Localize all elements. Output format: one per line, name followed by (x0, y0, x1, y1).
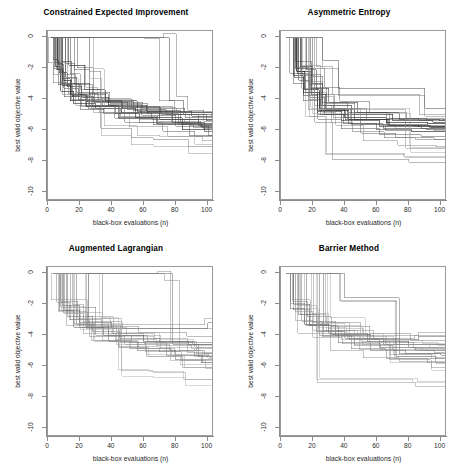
y-tick-mark (275, 334, 280, 335)
y-tick-mark (275, 67, 280, 68)
plot-area (280, 30, 446, 200)
x-axis-line (47, 436, 214, 437)
x-tick-label: 0 (278, 442, 282, 449)
x-tick-label: 100 (434, 206, 445, 213)
series-line (51, 38, 213, 141)
y-tick-mark (42, 129, 47, 130)
y-tick-mark (275, 160, 280, 161)
x-tick-label: 0 (45, 206, 49, 213)
x-tick-mark (344, 437, 345, 441)
y-axis-label: best valid objective value (14, 30, 26, 200)
x-tick-mark (408, 201, 409, 205)
y-tick-label: -10 (25, 181, 37, 201)
x-axis-label: black-box evaluations (n) (280, 219, 447, 226)
x-tick-mark (79, 201, 80, 205)
panel-title: Augmented Lagrangian (0, 244, 232, 253)
x-tick-mark (111, 201, 112, 205)
x-tick-mark (47, 201, 48, 205)
y-tick-label: -6 (258, 355, 270, 375)
y-tick-label: 0 (25, 262, 37, 282)
y-tick-label: -6 (25, 355, 37, 375)
x-tick-mark (344, 201, 345, 205)
x-axis-label: black-box evaluations (n) (280, 455, 447, 462)
y-tick-mark (42, 98, 47, 99)
x-tick-mark (143, 201, 144, 205)
y-tick-label: -6 (258, 119, 270, 139)
panel-barrier-method: Barrier Method best valid objective valu… (233, 236, 465, 472)
x-tick-mark (207, 201, 208, 205)
y-tick-mark (42, 303, 47, 304)
y-tick-mark (42, 36, 47, 37)
x-axis-line (280, 200, 447, 201)
y-tick-mark (275, 396, 280, 397)
x-axis-line (280, 436, 447, 437)
series-line (286, 274, 446, 382)
y-tick-label: -4 (258, 324, 270, 344)
y-axis-label: best valid objective value (247, 30, 259, 200)
y-tick-label: -8 (25, 386, 37, 406)
plot-area (47, 266, 213, 436)
panel-title: Asymmetric Entropy (233, 8, 465, 17)
panel-constrained-expected-improvement: Constrained Expected Improvement best va… (0, 0, 232, 236)
figure-canvas: Constrained Expected Improvement best va… (0, 0, 465, 472)
x-tick-mark (111, 437, 112, 441)
x-tick-mark (376, 201, 377, 205)
y-tick-mark (42, 396, 47, 397)
series-line (51, 38, 213, 114)
y-tick-label: -4 (258, 88, 270, 108)
panel-title: Barrier Method (233, 244, 465, 253)
y-tick-mark (42, 427, 47, 428)
panel-asymmetric-entropy: Asymmetric Entropy best valid objective … (233, 0, 465, 236)
x-axis-line (47, 200, 214, 201)
x-tick-mark (312, 437, 313, 441)
series-line (286, 274, 446, 348)
y-tick-mark (42, 334, 47, 335)
x-axis-label: black-box evaluations (n) (47, 219, 214, 226)
series-line (48, 38, 213, 112)
series-line (286, 274, 446, 386)
x-tick-mark (312, 201, 313, 205)
x-tick-mark (440, 437, 441, 441)
y-tick-mark (275, 272, 280, 273)
x-tick-mark (280, 201, 281, 205)
y-tick-label: -8 (25, 150, 37, 170)
y-tick-label: -2 (258, 293, 270, 313)
series-line (51, 38, 213, 144)
x-tick-mark (280, 437, 281, 441)
y-tick-label: -2 (258, 57, 270, 77)
x-tick-label: 20 (308, 206, 315, 213)
series-line (51, 274, 213, 355)
y-tick-mark (42, 160, 47, 161)
x-axis-label: black-box evaluations (n) (47, 455, 214, 462)
series-canvas (48, 31, 213, 200)
y-tick-label: 0 (258, 26, 270, 46)
y-tick-mark (275, 36, 280, 37)
x-tick-label: 80 (404, 442, 411, 449)
x-tick-label: 0 (278, 206, 282, 213)
x-tick-label: 40 (107, 206, 114, 213)
x-tick-mark (175, 201, 176, 205)
x-tick-label: 20 (75, 206, 82, 213)
series-line (51, 38, 213, 116)
y-tick-mark (275, 98, 280, 99)
x-tick-label: 80 (404, 206, 411, 213)
y-tick-label: -6 (25, 119, 37, 139)
x-tick-label: 100 (201, 442, 212, 449)
series-canvas (281, 267, 446, 436)
series-line (51, 38, 213, 136)
x-tick-mark (376, 437, 377, 441)
y-tick-mark (275, 303, 280, 304)
x-tick-mark (440, 201, 441, 205)
y-tick-label: -2 (25, 293, 37, 313)
y-tick-mark (275, 427, 280, 428)
y-tick-mark (275, 129, 280, 130)
x-tick-label: 20 (75, 442, 82, 449)
x-tick-label: 60 (139, 206, 146, 213)
x-tick-mark (408, 437, 409, 441)
y-tick-label: 0 (258, 262, 270, 282)
plot-area (47, 30, 213, 200)
y-tick-label: -4 (25, 324, 37, 344)
x-tick-mark (175, 437, 176, 441)
x-tick-label: 40 (340, 206, 347, 213)
y-tick-label: -4 (25, 88, 37, 108)
